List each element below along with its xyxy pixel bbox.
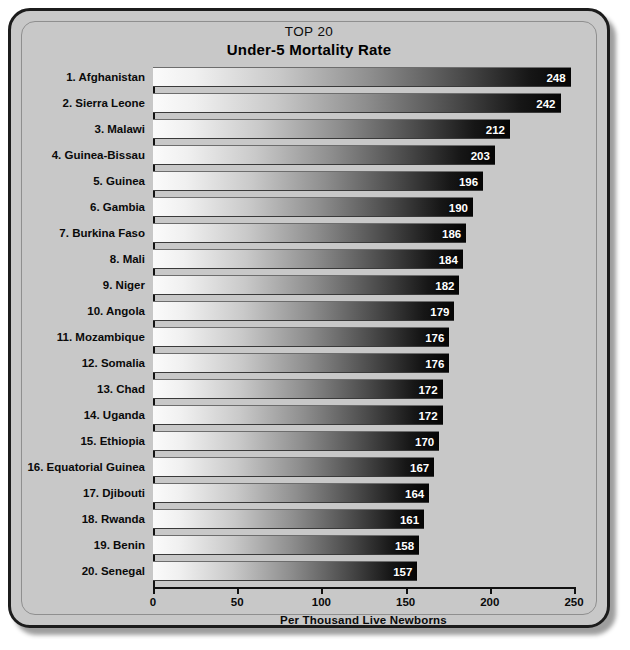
bar-row: 18. Rwanda161	[153, 509, 574, 535]
plot-area: 1. Afghanistan2482. Sierra Leone2423. Ma…	[153, 67, 574, 587]
bar-value-label: 186	[442, 224, 461, 244]
bar-row: 10. Angola179	[153, 301, 574, 327]
chart-title: TOP 20	[11, 23, 607, 40]
bar: 176	[153, 353, 449, 373]
bar: 196	[153, 171, 483, 191]
chart-subtitle: Under-5 Mortality Rate	[11, 40, 607, 60]
bar-row: 17. Djibouti164	[153, 483, 574, 509]
bar-category-label: 2. Sierra Leone	[63, 93, 145, 113]
bar: 176	[153, 327, 449, 347]
bar: 179	[153, 301, 454, 321]
bar-value-label: 172	[418, 406, 437, 426]
bar-row: 11. Mozambique176	[153, 327, 574, 353]
bar-value-label: 184	[439, 250, 458, 270]
bar-row: 19. Benin158	[153, 535, 574, 561]
bar-value-label: 164	[405, 484, 424, 504]
bar-row: 8. Mali184	[153, 249, 574, 275]
bar-value-label: 196	[459, 172, 478, 192]
x-axis-title: Per Thousand Live Newborns	[153, 614, 574, 626]
bar-value-label: 179	[430, 302, 449, 322]
x-axis-tick-label: 50	[231, 596, 244, 608]
bar: 190	[153, 197, 473, 217]
bar-category-label: 10. Angola	[87, 301, 145, 321]
bar: 164	[153, 483, 429, 503]
bar: 184	[153, 249, 463, 269]
bar-value-label: 176	[425, 354, 444, 374]
bar-category-label: 11. Mozambique	[57, 327, 145, 347]
bar: 242	[153, 93, 561, 113]
bar-row: 12. Somalia176	[153, 353, 574, 379]
bar-category-label: 4. Guinea-Bissau	[52, 145, 145, 165]
chart-title-block: TOP 20 Under-5 Mortality Rate	[11, 23, 607, 60]
bar-category-label: 7. Burkina Faso	[59, 223, 145, 243]
x-axis-tick	[574, 587, 576, 594]
bar: 182	[153, 275, 459, 295]
x-axis-tick	[153, 587, 155, 594]
x-axis-tick	[406, 587, 408, 594]
bar: 203	[153, 145, 495, 165]
bar: 172	[153, 405, 443, 425]
bar-row: 5. Guinea196	[153, 171, 574, 197]
bar-value-label: 157	[393, 562, 412, 582]
bar-category-label: 17. Djibouti	[83, 483, 145, 503]
bar-row: 3. Malawi212	[153, 119, 574, 145]
x-axis-tick-label: 100	[312, 596, 331, 608]
x-axis-tick-label: 150	[396, 596, 415, 608]
bar: 158	[153, 535, 419, 555]
bar-value-label: 248	[546, 68, 565, 88]
x-axis-line	[153, 587, 574, 589]
bar-row: 16. Equatorial Guinea167	[153, 457, 574, 483]
chart-screenshot: TOP 20 Under-5 Mortality Rate 1. Afghani…	[0, 0, 630, 650]
bar-value-label: 242	[536, 94, 555, 114]
bar-value-label: 176	[425, 328, 444, 348]
bar: 212	[153, 119, 510, 139]
bar-category-label: 5. Guinea	[93, 171, 145, 191]
bar-category-label: 15. Ethiopia	[80, 431, 145, 451]
bar-row: 1. Afghanistan248	[153, 67, 574, 93]
bar-category-label: 1. Afghanistan	[66, 67, 145, 87]
bar-row: 13. Chad172	[153, 379, 574, 405]
bar-category-label: 3. Malawi	[95, 119, 146, 139]
bar-category-label: 6. Gambia	[90, 197, 145, 217]
bar: 186	[153, 223, 466, 243]
bar-category-label: 13. Chad	[97, 379, 145, 399]
bar-value-label: 167	[410, 458, 429, 478]
bar: 157	[153, 561, 417, 581]
x-axis-tick	[490, 587, 492, 594]
bar: 248	[153, 67, 571, 87]
bar: 161	[153, 509, 424, 529]
bar-row: 14. Uganda172	[153, 405, 574, 431]
x-axis-tick-label: 0	[150, 596, 156, 608]
x-axis-tick	[237, 587, 239, 594]
bar-value-label: 182	[435, 276, 454, 296]
x-axis-tick-label: 200	[480, 596, 499, 608]
x-axis-tick	[321, 587, 323, 594]
bar-value-label: 212	[486, 120, 505, 140]
bar-rows: 1. Afghanistan2482. Sierra Leone2423. Ma…	[153, 67, 574, 587]
chart-panel: TOP 20 Under-5 Mortality Rate 1. Afghani…	[8, 8, 610, 628]
bar-value-label: 170	[415, 432, 434, 452]
bar-row: 6. Gambia190	[153, 197, 574, 223]
bar-row: 20. Senegal157	[153, 561, 574, 587]
x-axis-tick-label: 250	[564, 596, 583, 608]
bar-category-label: 18. Rwanda	[82, 509, 145, 529]
bar-row: 9. Niger182	[153, 275, 574, 301]
bar-value-label: 161	[400, 510, 419, 530]
bar-value-label: 172	[418, 380, 437, 400]
bar-value-label: 190	[449, 198, 468, 218]
bar-category-label: 8. Mali	[110, 249, 145, 269]
bar-value-label: 203	[471, 146, 490, 166]
bar: 167	[153, 457, 434, 477]
bar: 172	[153, 379, 443, 399]
bar-category-label: 9. Niger	[103, 275, 145, 295]
bar-row: 2. Sierra Leone242	[153, 93, 574, 119]
bar-category-label: 19. Benin	[94, 535, 145, 555]
bar-category-label: 16. Equatorial Guinea	[27, 457, 145, 477]
bar-category-label: 14. Uganda	[84, 405, 145, 425]
bar: 170	[153, 431, 439, 451]
bar-row: 4. Guinea-Bissau203	[153, 145, 574, 171]
bar-row: 7. Burkina Faso186	[153, 223, 574, 249]
bar-value-label: 158	[395, 536, 414, 556]
bar-row: 15. Ethiopia170	[153, 431, 574, 457]
bar-category-label: 12. Somalia	[82, 353, 145, 373]
